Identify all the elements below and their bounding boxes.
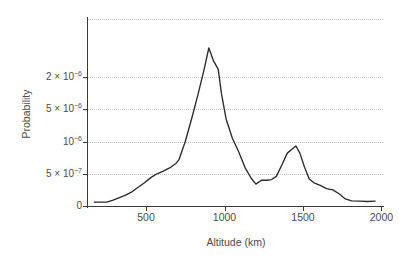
probability-curve-path <box>94 48 375 202</box>
x-axis-title: Altitude (km) <box>88 236 384 248</box>
x-tick-label-2: 1500 <box>291 212 314 223</box>
y-tick-label-2: 10−6 <box>63 137 82 147</box>
y-tick-mark-1 <box>83 174 88 175</box>
x-tick-label-3: 2000 <box>370 212 393 223</box>
y-tick-mark-3 <box>83 109 88 110</box>
probability-curve <box>88 19 383 206</box>
plot-area <box>88 19 383 206</box>
y-tick-mark-4 <box>83 77 88 78</box>
x-tick-label-1: 1000 <box>213 212 236 223</box>
x-axis-line <box>88 206 384 207</box>
y-axis-tick-labels: 05 × 10−710−65 × 10−62 × 10−6 <box>0 0 82 260</box>
y-tick-mark-2 <box>83 142 88 143</box>
y-tick-label-3: 5 × 10−6 <box>46 104 82 114</box>
x-tick-label-0: 500 <box>137 212 155 223</box>
chart-figure: Probability 05 × 10−710−65 × 10−62 × 10−… <box>0 0 409 260</box>
y-tick-mark-0 <box>83 206 88 207</box>
y-tick-label-0: 0 <box>76 201 82 211</box>
y-tick-label-4: 2 × 10−6 <box>46 72 82 82</box>
y-tick-label-1: 5 × 10−7 <box>46 169 82 179</box>
